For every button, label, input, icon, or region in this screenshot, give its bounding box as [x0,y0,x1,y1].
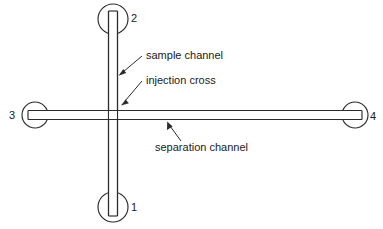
sample-channel-label: sample channel [146,49,223,61]
port-label-2: 2 [131,12,137,24]
injection-cross-interior [109,111,117,119]
port-label-4: 4 [370,110,376,122]
port-label-3: 3 [9,109,15,121]
injection-cross-label: injection cross [146,74,216,86]
diagram-canvas: 2 1 3 4 sample channel injection cross s… [0,0,383,229]
microfluidic-chip-schematic: 2 1 3 4 sample channel injection cross s… [0,0,383,229]
horizontal-channel-fill [28,111,362,120]
separation-channel-label: separation channel [155,141,248,153]
port-label-1: 1 [131,201,137,213]
